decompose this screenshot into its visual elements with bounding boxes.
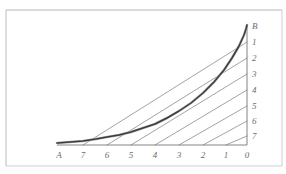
- y-tick-label-B: B: [252, 22, 258, 31]
- y-tick-label-1: 1: [252, 38, 257, 47]
- y-tick-label-3: 3: [252, 70, 257, 79]
- y-tick-label-5: 5: [252, 102, 257, 111]
- envelope-curve-figure: [0, 0, 286, 174]
- x-tick-label-1: 1: [224, 151, 229, 160]
- y-tick-label-6: 6: [252, 117, 257, 126]
- x-tick-label-3: 3: [177, 151, 182, 160]
- y-tick-label-4: 4: [252, 86, 257, 95]
- x-tick-label-2: 2: [201, 151, 206, 160]
- y-tick-label-2: 2: [252, 54, 257, 63]
- y-tick-label-7: 7: [252, 132, 257, 141]
- x-tick-label-5: 5: [129, 151, 134, 160]
- paper-background: [0, 0, 286, 174]
- x-tick-label-6: 6: [105, 151, 110, 160]
- x-tick-label-7: 7: [81, 151, 86, 160]
- x-tick-label-4: 4: [153, 151, 158, 160]
- x-tick-label-0: 0: [245, 151, 250, 160]
- x-tick-label-A: A: [56, 151, 62, 160]
- figure-root: A76543210 B1234567: [0, 0, 286, 174]
